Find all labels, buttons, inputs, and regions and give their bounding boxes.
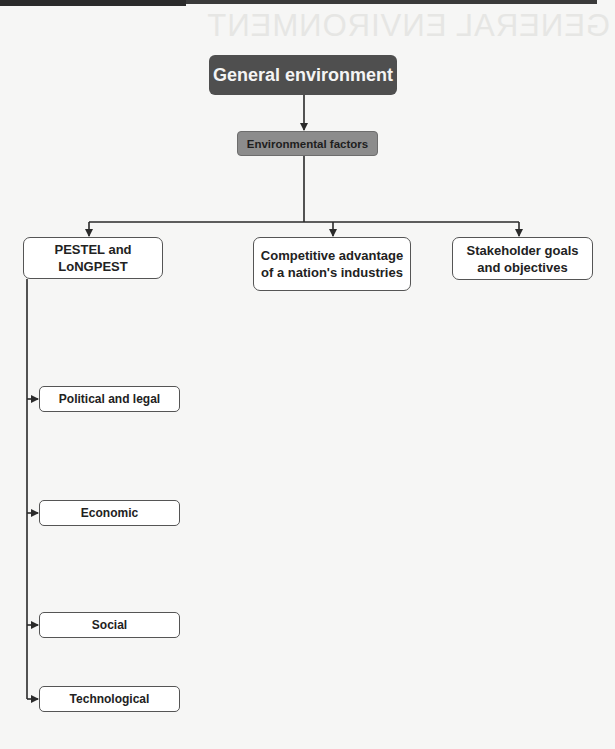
political-legal-node: Political and legal — [39, 386, 180, 412]
stakeholder-goals-label: Stakeholder goals and objectives — [463, 242, 583, 276]
environmental-factors-node: Environmental factors — [237, 131, 378, 156]
social-label: Social — [92, 618, 127, 632]
pestel-node: PESTEL and LoNGPEST — [23, 237, 163, 279]
general-environment-label: General environment — [213, 65, 393, 86]
environmental-factors-label: Environmental factors — [247, 138, 368, 150]
technological-node: Technological — [39, 686, 180, 712]
political-legal-label: Political and legal — [59, 392, 160, 406]
pestel-label: PESTEL and LoNGPEST — [48, 241, 138, 275]
technological-label: Technological — [70, 692, 150, 706]
competitive-advantage-node: Competitive advantage of a nation's indu… — [253, 237, 411, 291]
social-node: Social — [39, 612, 180, 638]
economic-label: Economic — [81, 506, 138, 520]
general-environment-node: General environment — [209, 55, 397, 95]
stakeholder-goals-node: Stakeholder goals and objectives — [452, 237, 593, 280]
competitive-advantage-label: Competitive advantage of a nation's indu… — [257, 247, 407, 281]
economic-node: Economic — [39, 500, 180, 526]
